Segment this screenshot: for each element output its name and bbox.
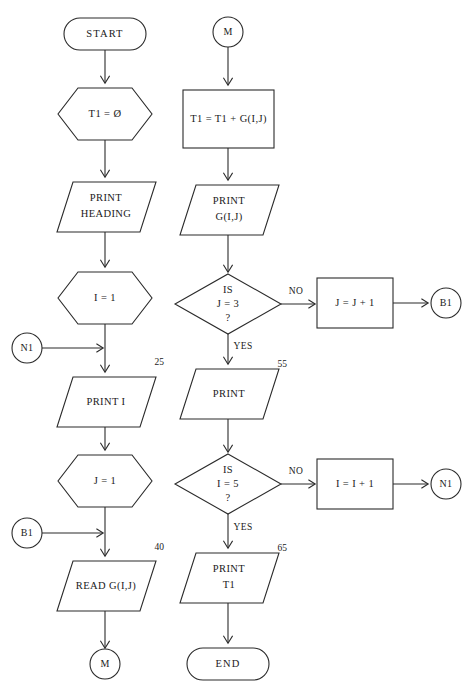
node-init-t1: T1 = Ø	[58, 88, 152, 140]
connector-m-top-label: M	[223, 26, 232, 37]
start-label: START	[86, 28, 123, 39]
decide-j-label-line3: ?	[225, 312, 230, 323]
step-number-print-i: 25	[155, 357, 165, 367]
decide-j-label-line1: IS	[223, 284, 233, 295]
node-print-heading: PRINT HEADING	[57, 182, 156, 232]
node-start: START	[64, 18, 146, 50]
edge-label-j-no: NO	[289, 286, 304, 296]
print-t1-parallelogram-shape	[180, 553, 279, 603]
node-init-j: J = 1	[58, 455, 152, 507]
connector-n1-right-label: N1	[440, 478, 453, 489]
connector-m-bottom-label: M	[100, 658, 109, 669]
node-print-i: PRINT I	[57, 377, 156, 427]
flowchart-svg: START T1 = Ø PRINT HEADING I = 1 N	[0, 0, 473, 696]
node-incr-i: I = I + 1	[317, 459, 393, 509]
edge-label-i-no: NO	[289, 466, 304, 476]
decide-j-label-line2: J = 3	[217, 298, 240, 309]
node-print-g: PRINT G(I,J)	[180, 185, 279, 235]
print-g-label-line1: PRINT	[213, 195, 246, 206]
node-connector-b1-right: B1	[431, 288, 461, 318]
node-read-g: READ G(I,J)	[57, 561, 156, 611]
connector-b1-right-label: B1	[440, 297, 452, 308]
node-end: END	[187, 648, 269, 680]
node-connector-n1-left: N1	[12, 333, 42, 363]
step-number-read-g: 40	[155, 542, 165, 552]
connector-n1-left-label: N1	[21, 342, 34, 353]
print-heading-parallelogram-shape	[57, 182, 156, 232]
print-g-parallelogram-shape	[180, 185, 279, 235]
decide-i-label-line2: I = 5	[217, 478, 239, 489]
init-j-label: J = 1	[94, 475, 117, 486]
decide-i-label-line3: ?	[225, 492, 230, 503]
end-label: END	[216, 658, 241, 669]
node-incr-j: J = J + 1	[317, 278, 393, 328]
node-decide-j: IS J = 3 ?	[175, 274, 281, 334]
node-print-blank: PRINT	[180, 369, 279, 419]
init-i-label: I = 1	[94, 292, 116, 303]
decide-i-label-line1: IS	[223, 464, 233, 475]
print-heading-label-line2: HEADING	[81, 208, 132, 219]
node-connector-m-top: M	[213, 17, 243, 47]
connector-b1-left-label: B1	[21, 527, 33, 538]
print-g-label-line2: G(I,J)	[215, 211, 242, 223]
read-g-label: READ G(I,J)	[76, 580, 136, 592]
print-t1-label-line1: PRINT	[213, 563, 246, 574]
node-print-t1: PRINT T1	[180, 553, 279, 603]
edge-label-j-yes: YES	[233, 341, 252, 351]
edge-label-i-yes: YES	[233, 522, 252, 532]
print-i-label: PRINT I	[86, 396, 125, 407]
print-heading-label-line1: PRINT	[90, 192, 123, 203]
init-t1-label: T1 = Ø	[89, 108, 122, 119]
flowchart-canvas: START T1 = Ø PRINT HEADING I = 1 N	[0, 0, 473, 696]
accumulate-label: T1 = T1 + G(I,J)	[190, 113, 267, 125]
node-accumulate: T1 = T1 + G(I,J)	[183, 90, 274, 148]
incr-j-label: J = J + 1	[335, 297, 374, 308]
print-t1-label-line2: T1	[223, 579, 235, 590]
node-init-i: I = 1	[58, 272, 152, 324]
node-connector-b1-left: B1	[12, 518, 42, 548]
node-connector-m-bottom: M	[90, 649, 120, 679]
incr-i-label: I = I + 1	[336, 478, 374, 489]
node-connector-n1-right: N1	[431, 469, 461, 499]
node-decide-i: IS I = 5 ?	[175, 454, 281, 514]
step-number-print-t1: 65	[278, 543, 288, 553]
step-number-print-blank: 55	[278, 359, 288, 369]
print-blank-label: PRINT	[213, 388, 246, 399]
